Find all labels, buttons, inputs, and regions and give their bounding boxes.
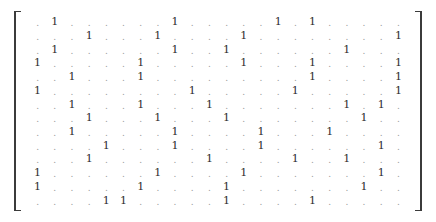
matrix-cell-zero: .	[321, 198, 338, 207]
matrix-cell-zero: .	[270, 129, 287, 138]
matrix-cell-one: 1	[201, 153, 218, 164]
matrix-cell-zero: .	[63, 184, 80, 193]
matrix-cell-one: 1	[149, 112, 166, 123]
matrix-cell-zero: .	[338, 184, 355, 193]
matrix-cell-zero: .	[81, 47, 98, 56]
matrix-cell-zero: .	[304, 184, 321, 193]
matrix-cell-zero: .	[149, 102, 166, 111]
matrix-cell-zero: .	[252, 60, 269, 69]
matrix-cell-zero: .	[287, 143, 304, 152]
matrix-cell-one: 1	[149, 167, 166, 178]
matrix-cell-zero: .	[338, 60, 355, 69]
matrix-cell-zero: .	[98, 33, 115, 42]
matrix-cell-one: 1	[252, 140, 269, 151]
matrix-cell-zero: .	[373, 184, 390, 193]
matrix-cell-zero: .	[29, 74, 46, 83]
matrix-row: ..1...1...1.......1.1.	[29, 97, 407, 111]
matrix-cell-zero: .	[201, 47, 218, 56]
left-bracket	[14, 11, 23, 211]
matrix-cell-one: 1	[355, 112, 372, 123]
matrix-cell-zero: .	[184, 47, 201, 56]
matrix-cell-zero: .	[98, 60, 115, 69]
matrix-cell-zero: .	[287, 102, 304, 111]
matrix-cell-zero: .	[98, 88, 115, 97]
matrix-cell-zero: .	[321, 47, 338, 56]
matrix-cell-zero: .	[149, 129, 166, 138]
matrix-cell-zero: .	[184, 60, 201, 69]
matrix-cell-zero: .	[166, 156, 183, 165]
matrix-cell-zero: .	[373, 129, 390, 138]
matrix-cell-zero: .	[235, 184, 252, 193]
matrix-cell-zero: .	[270, 102, 287, 111]
matrix-cell-zero: .	[166, 74, 183, 83]
matrix-cell-one: 1	[63, 71, 80, 82]
matrix-cell-zero: .	[235, 19, 252, 28]
matrix-cell-zero: .	[338, 88, 355, 97]
matrix-cell-zero: .	[252, 74, 269, 83]
matrix-cell-zero: .	[132, 88, 149, 97]
matrix-cell-one: 1	[390, 30, 407, 41]
matrix-cell-zero: .	[29, 47, 46, 56]
matrix-cell-zero: .	[63, 19, 80, 28]
matrix-cell-zero: .	[132, 115, 149, 124]
matrix-cell-one: 1	[166, 140, 183, 151]
matrix-cell-zero: .	[201, 184, 218, 193]
matrix-cell-zero: .	[287, 184, 304, 193]
matrix-cell-zero: .	[235, 129, 252, 138]
matrix-cell-zero: .	[287, 115, 304, 124]
matrix-cell-zero: .	[81, 129, 98, 138]
matrix-cell-one: 1	[201, 99, 218, 110]
matrix-cell-zero: .	[270, 184, 287, 193]
matrix-cell-zero: .	[252, 156, 269, 165]
matrix-cell-zero: .	[355, 60, 372, 69]
matrix-cell-zero: .	[98, 47, 115, 56]
matrix-cell-zero: .	[270, 156, 287, 165]
matrix-cell-zero: .	[304, 33, 321, 42]
matrix-cell-zero: .	[355, 33, 372, 42]
matrix-cell-zero: .	[373, 19, 390, 28]
matrix-container: .1......1.....1.1........1...1....1.....…	[14, 11, 422, 211]
matrix-row: 1......1....1.......1.	[29, 166, 407, 180]
matrix-cell-zero: .	[132, 19, 149, 28]
matrix-cell-zero: .	[149, 88, 166, 97]
matrix-cell-zero: .	[115, 156, 132, 165]
matrix-cell-zero: .	[115, 33, 132, 42]
matrix-cell-one: 1	[81, 153, 98, 164]
matrix-cell-one: 1	[29, 167, 46, 178]
matrix-cell-zero: .	[218, 143, 235, 152]
matrix-cell-zero: .	[29, 129, 46, 138]
matrix-cell-one: 1	[373, 167, 390, 178]
matrix-cell-zero: .	[390, 170, 407, 179]
matrix-cell-zero: .	[184, 143, 201, 152]
matrix-cell-one: 1	[338, 44, 355, 55]
matrix-cell-zero: .	[149, 47, 166, 56]
matrix-row: ...1...1....1........1	[29, 29, 407, 43]
matrix-cell-zero: .	[287, 129, 304, 138]
matrix-cell-zero: .	[115, 47, 132, 56]
matrix-cell-zero: .	[218, 88, 235, 97]
matrix-cell-zero: .	[132, 33, 149, 42]
matrix-cell-zero: .	[98, 170, 115, 179]
matrix-cell-zero: .	[355, 19, 372, 28]
matrix-cell-zero: .	[115, 143, 132, 152]
matrix-cell-zero: .	[166, 60, 183, 69]
matrix-cell-zero: .	[287, 33, 304, 42]
matrix-cell-zero: .	[132, 129, 149, 138]
matrix-cell-one: 1	[63, 99, 80, 110]
matrix-cell-zero: .	[115, 102, 132, 111]
matrix-cell-zero: .	[321, 115, 338, 124]
matrix-cell-zero: .	[98, 129, 115, 138]
matrix-cell-zero: .	[252, 170, 269, 179]
matrix-cell-one: 1	[81, 112, 98, 123]
matrix-cell-zero: .	[201, 74, 218, 83]
matrix-cell-zero: .	[390, 129, 407, 138]
matrix-cell-zero: .	[63, 47, 80, 56]
matrix-cell-zero: .	[390, 184, 407, 193]
matrix-figure: .1......1.....1.1........1...1....1.....…	[0, 0, 436, 222]
matrix-cell-zero: .	[166, 102, 183, 111]
matrix-cell-zero: .	[321, 33, 338, 42]
matrix-cell-zero: .	[235, 74, 252, 83]
matrix-cell-zero: .	[390, 115, 407, 124]
matrix-cell-zero: .	[149, 198, 166, 207]
matrix-cell-zero: .	[184, 184, 201, 193]
